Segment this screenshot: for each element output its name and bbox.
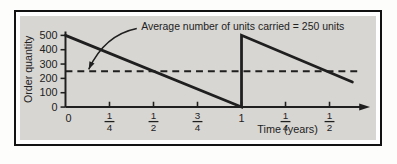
- y-tick-label: 100: [39, 86, 57, 98]
- x-tick-fraction-denominator: 2: [327, 122, 332, 133]
- x-tick-fraction-denominator: 4: [107, 122, 113, 133]
- average-units-annotation: Average number of units carried = 250 un…: [141, 21, 344, 32]
- x-axis-title: Time (years): [257, 123, 318, 135]
- x-tick-fraction-numerator: 1: [151, 110, 156, 121]
- y-tick-label: 200: [39, 72, 57, 84]
- x-tick-label: 0: [65, 112, 71, 124]
- x-tick-fraction-numerator: 1: [283, 110, 288, 121]
- inventory-sawtooth-chart: 0100200300400500014123411412Order quanti…: [20, 16, 376, 140]
- x-tick-fraction-numerator: 3: [195, 110, 200, 121]
- x-tick-fraction-denominator: 4: [195, 122, 201, 133]
- y-tick-label: 300: [39, 58, 57, 70]
- y-axis-title: Order quantity: [22, 35, 34, 103]
- y-tick-label: 400: [39, 43, 57, 55]
- x-tick-fraction-denominator: 2: [151, 122, 156, 133]
- y-tick-label: 500: [39, 29, 57, 41]
- figure-frame: 0100200300400500014123411412Order quanti…: [14, 10, 382, 146]
- y-tick-label: 0: [52, 101, 58, 113]
- x-tick-label: 1: [238, 112, 244, 124]
- x-tick-fraction-numerator: 1: [327, 110, 332, 121]
- chart-panel: 0100200300400500014123411412Order quanti…: [20, 16, 376, 140]
- x-tick-fraction-numerator: 1: [107, 110, 112, 121]
